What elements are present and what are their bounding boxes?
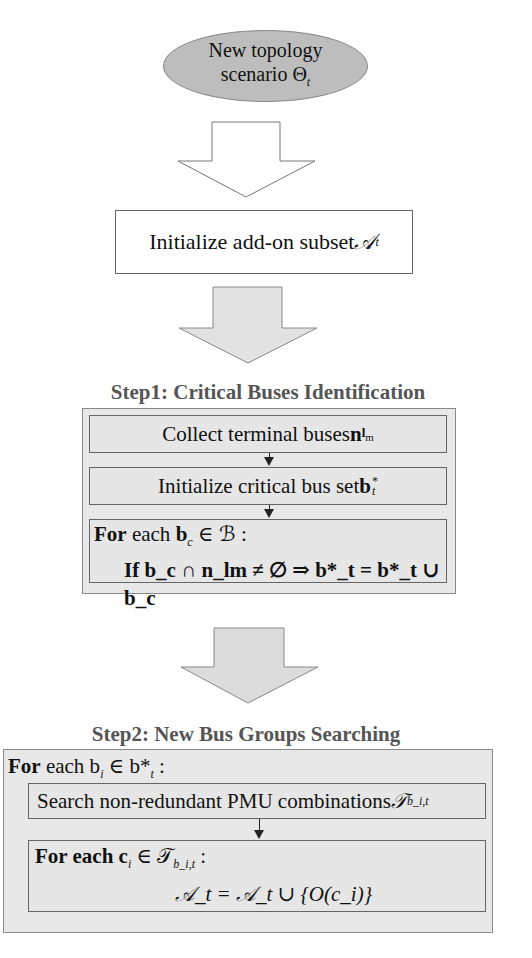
block-arrow-2 <box>179 287 317 363</box>
for-each-ci-box: For each ci ∈ 𝒯b_i,t : 𝒜_t = 𝒜_t ∪ {O(c_… <box>28 840 486 912</box>
small-arrow-icon <box>264 457 274 466</box>
step2-container: For each bi ∈ b*t : Search non-redundant… <box>3 749 493 933</box>
update-formula-line: 𝒜_t = 𝒜_t ∪ {O(c_i)} <box>35 879 485 909</box>
block-arrow-1 <box>178 122 315 197</box>
init-addon-subset-box: Initialize add-on subset 𝒜t <box>115 210 413 274</box>
step1-heading: Step1: Critical Buses Identification <box>82 380 454 405</box>
small-arrow-icon <box>254 830 264 839</box>
if-condition-line: If b_c ∩ n_lm ≠ ∅ ⇒ b*_t = b*_t ∪ b_c <box>94 556 446 612</box>
inner-for-line: For each ci ∈ 𝒯b_i,t : <box>35 841 485 879</box>
collect-terminal-buses-box: Collect terminal buses nlm <box>89 415 447 453</box>
for-each-bi-line: For each bi ∈ b*t : <box>8 754 165 782</box>
search-pmu-combinations-box: Search non-redundant PMU combinations 𝒯b… <box>28 783 486 819</box>
step2-heading: Step2: New Bus Groups Searching <box>0 722 532 747</box>
for-each-line: For each bc ∈ ℬ : <box>94 520 446 556</box>
block-arrow-3 <box>181 628 318 703</box>
step1-container: Collect terminal buses nlm Initialize cr… <box>82 408 456 594</box>
for-each-bc-box: For each bc ∈ ℬ : If b_c ∩ n_lm ≠ ∅ ⇒ b*… <box>89 519 447 583</box>
init-critical-bus-box: Initialize critical bus set b*t <box>89 467 447 505</box>
small-arrow-icon <box>264 509 274 518</box>
